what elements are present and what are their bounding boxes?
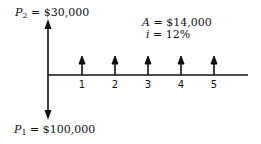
period-label-1: 1 — [76, 79, 88, 90]
interest-value: 12% — [166, 28, 190, 41]
p1-label: P1 = $100,000 — [14, 124, 95, 139]
p2-value: $30,000 — [44, 6, 90, 19]
p2-equals: = — [28, 6, 44, 19]
period-label-2: 2 — [109, 79, 121, 90]
p1-value: $100,000 — [43, 123, 96, 136]
annuity-arrows — [79, 56, 217, 75]
p2-label: P2 = $30,000 — [15, 7, 89, 22]
p1-down-arrow-icon — [45, 110, 52, 120]
period-label-3: 3 — [142, 79, 154, 90]
p1-equals: = — [27, 123, 43, 136]
interest-equals: = — [150, 28, 166, 41]
period-label-4: 4 — [175, 79, 187, 90]
period-label-5: 5 — [208, 79, 220, 90]
interest-label: i = 12% — [146, 29, 190, 41]
